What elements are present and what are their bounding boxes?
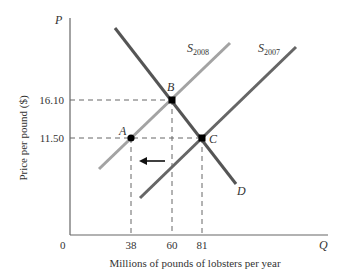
x-axis-title: Millions of pounds of lobsters per year: [109, 257, 280, 269]
y-axis-title: Price per pound ($): [17, 95, 30, 181]
supply-demand-chart: A B C D S2008 S2007 P Q 0 16.10 11.50 38…: [0, 0, 347, 279]
supply-2007-curve: [140, 47, 296, 198]
point-b-label: B: [167, 80, 175, 94]
dashed-guides: [70, 100, 202, 235]
demand-curve: [115, 28, 236, 184]
point-c: [199, 135, 206, 142]
origin-label: 0: [60, 239, 66, 251]
x-tick-38: 38: [126, 239, 138, 251]
point-a: [127, 134, 134, 141]
y-tick-11-50: 11.50: [40, 132, 65, 144]
x-axis-symbol: Q: [319, 238, 328, 252]
point-b: [169, 97, 176, 104]
supply-2008-label: S2008: [187, 41, 209, 57]
x-tick-60: 60: [167, 239, 179, 251]
left-arrow-icon: [139, 157, 165, 165]
y-tick-16-10: 16.10: [39, 94, 64, 106]
point-c-label: C: [209, 132, 218, 146]
x-tick-81: 81: [197, 239, 208, 251]
point-a-label: A: [118, 124, 127, 138]
supply-2007-label: S2007: [258, 41, 280, 57]
y-axis-symbol: P: [54, 13, 63, 27]
demand-label: D: [236, 184, 246, 198]
